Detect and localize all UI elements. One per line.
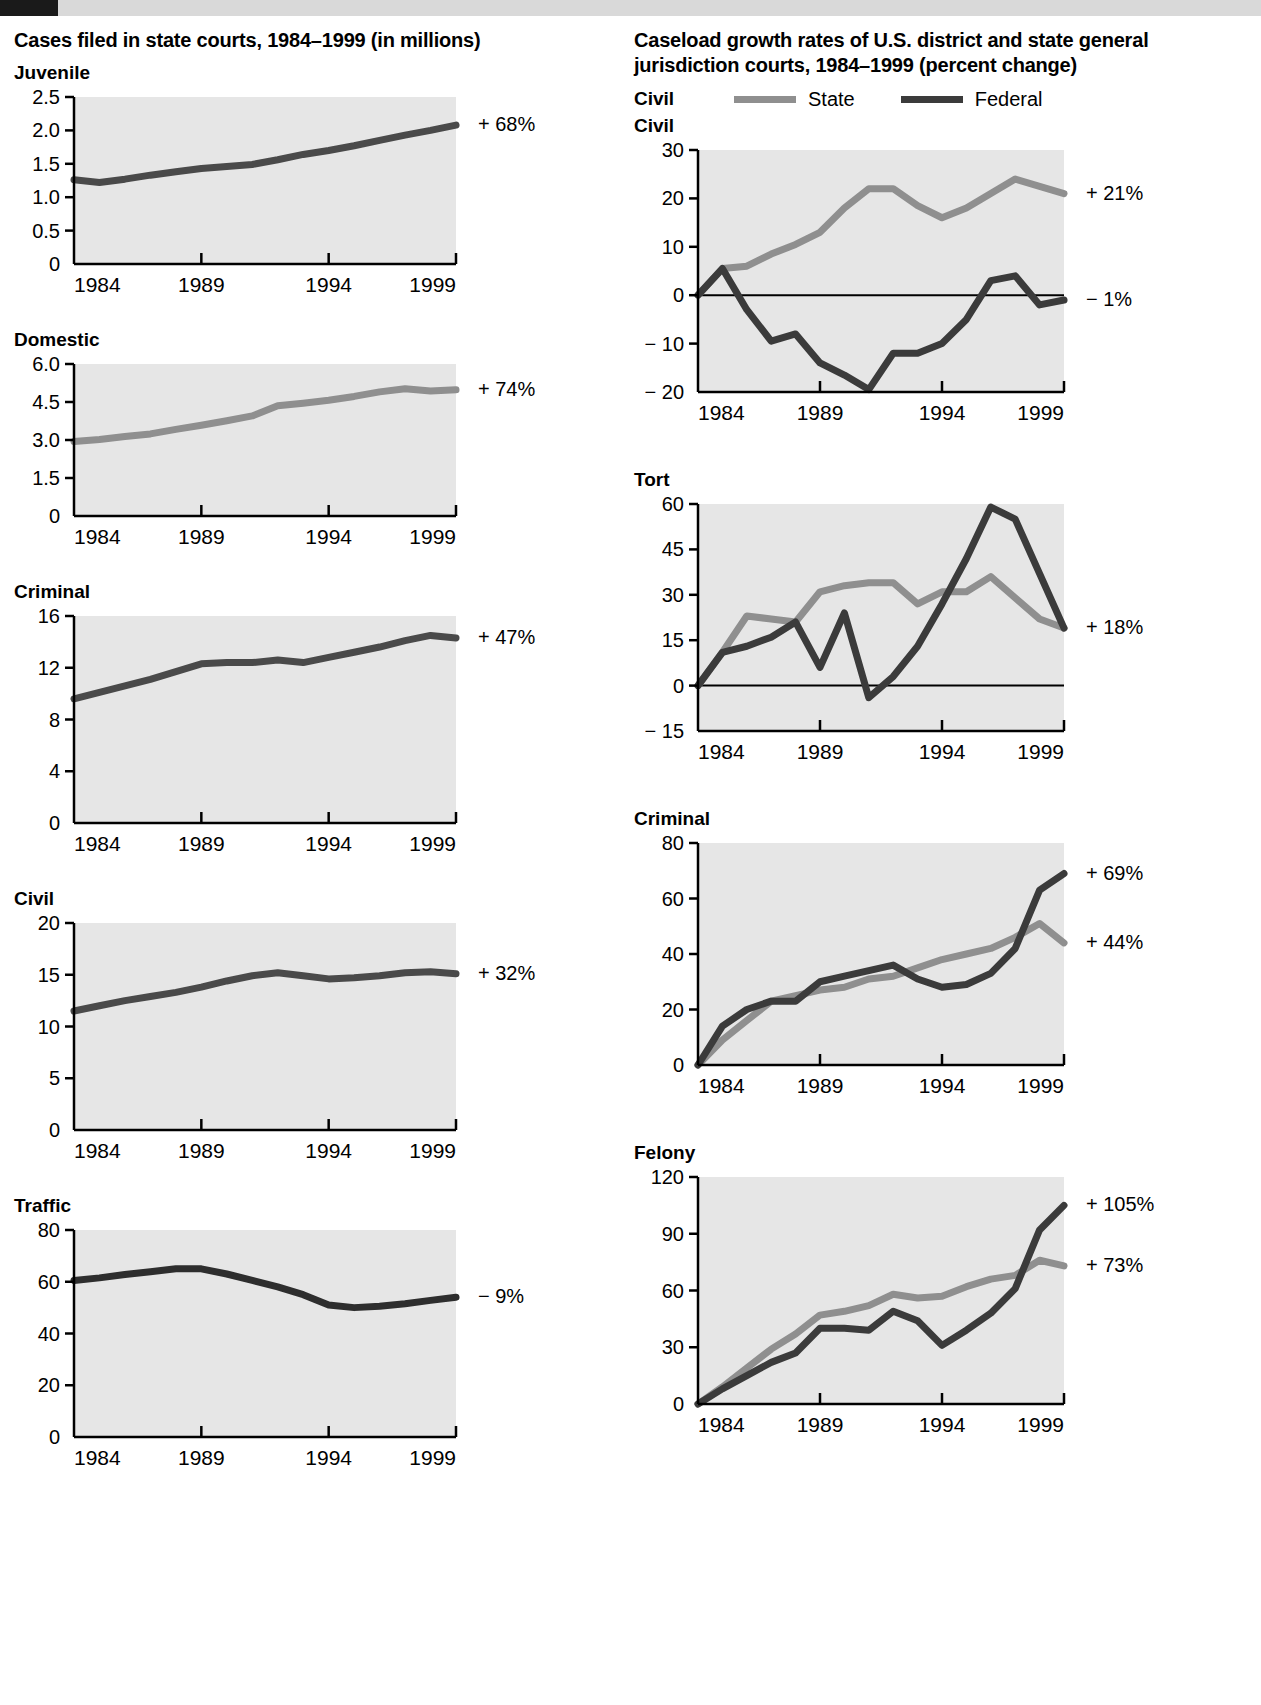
x-tick-label: 1984: [698, 740, 745, 763]
left-column: Cases filed in state courts, 1984–1999 (…: [14, 28, 614, 1501]
x-tick-label: 1984: [74, 832, 121, 855]
growth-annotation-right-tort-0: + 18%: [1086, 617, 1143, 637]
x-tick-label: 1984: [74, 1446, 121, 1469]
x-tick-label: 1999: [1017, 401, 1064, 424]
growth-annotation-left-civil-0: + 32%: [478, 963, 535, 983]
growth-annotation-right-felony-1: + 73%: [1086, 1255, 1143, 1275]
page-top-band: [0, 0, 1261, 16]
y-tick-label: 0: [49, 505, 60, 527]
y-tick-label: 1.0: [32, 186, 60, 208]
y-tick-label: 4: [49, 760, 60, 782]
x-tick-label: 1994: [305, 525, 352, 548]
chart-plot-row-right-tort: − 150153045601984198919941999+ 18%: [634, 494, 1254, 769]
y-tick-label: 3.0: [32, 429, 60, 451]
y-tick-label: 0: [49, 812, 60, 834]
y-tick-label: 5: [49, 1067, 60, 1089]
chart-plot-row-left-civil: 051015201984198919941999+ 32%: [14, 913, 614, 1168]
growth-annotation-right-criminal-1: + 44%: [1086, 932, 1143, 952]
plot-background: [74, 616, 456, 823]
y-tick-label: 40: [662, 943, 684, 965]
chart-panel-right-civil: Civil− 20− 1001020301984198919941999+ 21…: [634, 114, 1254, 430]
y-tick-label: 60: [38, 1271, 60, 1293]
chart-plot-row-left-traffic: 0204060801984198919941999− 9%: [14, 1220, 614, 1475]
x-tick-label: 1984: [74, 273, 121, 296]
panel-spacer: [634, 1107, 1254, 1141]
chart-plot-row-left-juvenile: 00.51.01.52.02.51984198919941999+ 68%: [14, 87, 614, 302]
chart-panel-left-domestic: Domestic01.53.04.56.01984198919941999+ 7…: [14, 328, 614, 554]
y-tick-label: 1.5: [32, 467, 60, 489]
panel-spacer: [634, 1446, 1254, 1480]
y-tick-label: 20: [38, 1374, 60, 1396]
chart-plot-row-left-domestic: 01.53.04.56.01984198919941999+ 74%: [14, 354, 614, 554]
x-tick-label: 1999: [409, 1446, 456, 1469]
left-column-title: Cases filed in state courts, 1984–1999 (…: [14, 28, 614, 53]
x-tick-label: 1999: [1017, 740, 1064, 763]
chart-svg-left-juvenile: 00.51.01.52.02.51984198919941999: [14, 87, 466, 302]
y-tick-label: 60: [662, 1280, 684, 1302]
panel-spacer: [634, 773, 1254, 807]
legend-group-label: Civil: [634, 88, 734, 110]
x-tick-label: 1999: [1017, 1413, 1064, 1436]
y-tick-label: − 20: [645, 381, 684, 403]
x-tick-label: 1989: [797, 1074, 844, 1097]
chart-panel-left-civil: Civil051015201984198919941999+ 32%: [14, 887, 614, 1168]
legend-swatch-state-icon: [734, 96, 796, 103]
panel-spacer: [14, 558, 614, 580]
y-tick-label: 30: [662, 584, 684, 606]
panel-spacer: [14, 306, 614, 328]
chart-svg-right-felony: 03060901201984198919941999: [634, 1167, 1074, 1442]
y-tick-label: 0: [673, 675, 684, 697]
x-tick-label: 1999: [409, 273, 456, 296]
legend-label-state: State: [808, 88, 855, 111]
x-tick-label: 1989: [797, 401, 844, 424]
y-tick-label: − 15: [645, 720, 684, 742]
legend-label-federal: Federal: [975, 88, 1043, 111]
panel-spacer: [14, 1172, 614, 1194]
plot-background: [74, 923, 456, 1130]
growth-annotation-right-civil-0: + 21%: [1086, 183, 1143, 203]
y-tick-label: 10: [38, 1016, 60, 1038]
x-tick-label: 1989: [178, 273, 225, 296]
y-tick-label: 20: [662, 187, 684, 209]
x-tick-label: 1984: [698, 1074, 745, 1097]
right-column: Caseload growth rates of U.S. district a…: [634, 28, 1254, 1480]
right-chart-stack: Civil− 20− 1001020301984198919941999+ 21…: [634, 114, 1254, 1480]
x-tick-label: 1989: [178, 1139, 225, 1162]
growth-annotation-right-felony-0: + 105%: [1086, 1194, 1154, 1214]
growth-annotation-left-domestic-0: + 74%: [478, 379, 535, 399]
x-tick-label: 1994: [305, 273, 352, 296]
chart-panel-right-felony: Felony03060901201984198919941999+ 105%+ …: [634, 1141, 1254, 1442]
right-column-title: Caseload growth rates of U.S. district a…: [634, 28, 1254, 78]
x-tick-label: 1999: [409, 525, 456, 548]
y-tick-label: 20: [38, 913, 60, 934]
panel-spacer: [14, 1479, 614, 1501]
chart-svg-left-traffic: 0204060801984198919941999: [14, 1220, 466, 1475]
chart-panel-left-traffic: Traffic0204060801984198919941999− 9%: [14, 1194, 614, 1475]
y-tick-label: 80: [662, 833, 684, 854]
chart-panel-right-tort: Tort− 150153045601984198919941999+ 18%: [634, 468, 1254, 769]
y-tick-label: 10: [662, 236, 684, 258]
y-tick-label: 90: [662, 1223, 684, 1245]
y-tick-label: 45: [662, 538, 684, 560]
y-tick-label: 80: [38, 1220, 60, 1241]
x-tick-label: 1989: [797, 740, 844, 763]
y-tick-label: 6.0: [32, 354, 60, 375]
chart-title-left-domestic: Domestic: [14, 328, 614, 351]
plot-background: [74, 1230, 456, 1437]
series-legend: Civil State Federal: [634, 86, 1254, 112]
y-tick-label: 20: [662, 999, 684, 1021]
chart-plot-row-right-felony: 03060901201984198919941999+ 105%+ 73%: [634, 1167, 1254, 1442]
growth-annotation-right-civil-1: − 1%: [1086, 289, 1132, 309]
x-tick-label: 1999: [1017, 1074, 1064, 1097]
chart-title-left-criminal: Criminal: [14, 580, 614, 603]
y-tick-label: 2.0: [32, 119, 60, 141]
y-tick-label: 8: [49, 709, 60, 731]
y-tick-label: 0: [673, 284, 684, 306]
panel-spacer: [634, 434, 1254, 468]
y-tick-label: 4.5: [32, 391, 60, 413]
x-tick-label: 1994: [305, 1446, 352, 1469]
growth-annotation-left-traffic-0: − 9%: [478, 1286, 524, 1306]
legend-item-federal: Federal: [901, 88, 1043, 111]
x-tick-label: 1984: [74, 525, 121, 548]
chart-title-left-traffic: Traffic: [14, 1194, 614, 1217]
